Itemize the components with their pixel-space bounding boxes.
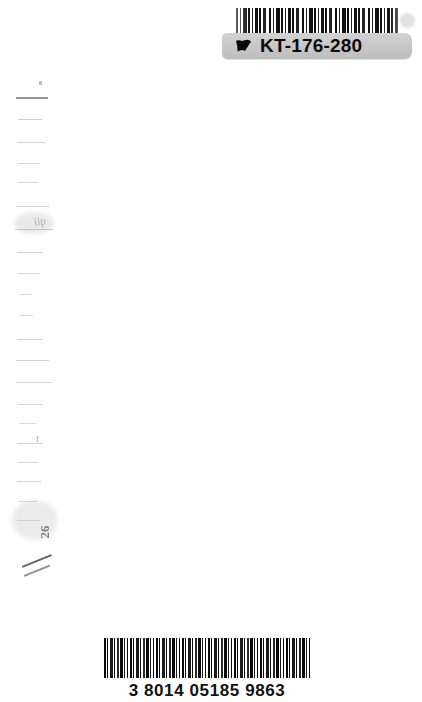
edge-dash-mark <box>16 206 49 207</box>
edge-dash-mark <box>17 252 43 253</box>
library-barcode-bars <box>236 8 401 33</box>
diagonal-stroke <box>24 565 51 577</box>
flag-icon <box>235 39 252 53</box>
edge-dash-mark <box>16 360 49 361</box>
edge-dash-mark <box>18 119 42 120</box>
dust-speck <box>39 81 42 85</box>
edge-dash-mark <box>19 423 36 424</box>
edge-dash-mark <box>16 97 48 99</box>
product-barcode: 3 8014 05185 9863 <box>104 638 310 701</box>
edge-dash-mark <box>17 339 42 340</box>
edge-bleed-marks: ilp t 26 <box>0 0 90 702</box>
edge-dash-mark <box>18 273 40 274</box>
edge-dash-mark <box>18 163 40 164</box>
label-dot-icon <box>400 13 415 28</box>
edge-dash-mark <box>17 481 41 482</box>
edge-dash-mark <box>16 382 52 383</box>
product-barcode-bars <box>104 638 310 678</box>
edge-dash-mark <box>17 142 45 143</box>
library-label-band: KT-176-280 <box>222 33 412 59</box>
edge-dash-mark <box>18 182 38 183</box>
edge-dash-mark <box>18 462 38 463</box>
library-label-code: KT-176-280 <box>260 35 362 57</box>
edge-dash-mark <box>18 501 37 502</box>
edge-dash-mark <box>17 520 40 521</box>
scanned-page: KT-176-280 ilp t 26 3 8014 05185 9863 <box>0 0 422 702</box>
library-barcode-label: KT-176-280 <box>222 6 414 62</box>
edge-dash-mark <box>15 229 53 230</box>
pencil-number-smudge: 26 <box>37 526 53 539</box>
edge-dash-mark <box>18 404 42 405</box>
barcode-fade-overlay <box>236 8 401 33</box>
edge-dash-mark <box>17 443 43 444</box>
handwriting-smudge: ilp <box>33 214 46 228</box>
edge-dash-mark <box>19 294 32 295</box>
edge-dash-mark <box>19 315 33 316</box>
product-barcode-number: 3 8014 05185 9863 <box>104 681 310 701</box>
